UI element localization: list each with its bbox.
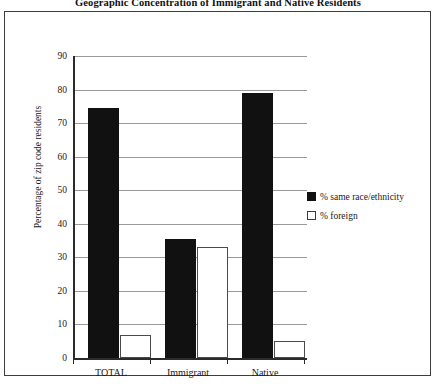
y-tick-label-40: 40	[45, 220, 67, 229]
y-axis: 90 80 70 60 50 40 30 20 10 0	[31, 56, 67, 358]
x-tick-label-native: Native	[219, 367, 311, 378]
y-tick-label-50: 50	[45, 186, 67, 195]
bar-group-immigrant	[156, 56, 233, 358]
legend-label-same-race: % same race/ethnicity	[320, 192, 404, 202]
y-tick-label-70: 70	[45, 119, 67, 128]
legend-item-foreign: % foreign	[307, 207, 433, 224]
bar-group-native	[233, 56, 310, 358]
bar-native-foreign	[274, 341, 305, 358]
y-tick-label-10: 10	[45, 320, 67, 329]
y-tick-label-80: 80	[45, 86, 67, 95]
y-tick-label-60: 60	[45, 153, 67, 162]
y-tick-label-20: 20	[45, 287, 67, 296]
x-tick-mark-3	[304, 359, 305, 364]
legend-label-foreign: % foreign	[320, 211, 358, 221]
y-tick-label-0: 0	[45, 354, 67, 363]
chart-title: Geographic Concentration of Immigrant an…	[0, 0, 436, 9]
clipped-footer-text	[14, 379, 214, 386]
y-tick-label-30: 30	[45, 253, 67, 262]
bar-immigrant-same-race	[165, 239, 196, 358]
bar-total-foreign	[120, 335, 151, 358]
x-tick-mark-1	[150, 359, 151, 364]
x-tick-mark-2	[227, 359, 228, 364]
plot-area	[73, 56, 307, 360]
legend-swatch-outlined-square-icon	[307, 211, 316, 220]
bar-group-total	[79, 56, 156, 358]
chart-legend: % same race/ethnicity % foreign	[307, 188, 433, 226]
bar-native-same-race	[242, 93, 273, 358]
bar-total-same-race	[88, 108, 119, 358]
chart-frame: Percentage of zip code residents 90 80 7…	[4, 11, 431, 376]
legend-item-same-race: % same race/ethnicity	[307, 188, 433, 205]
bar-immigrant-foreign	[197, 247, 228, 358]
legend-swatch-filled-square-icon	[307, 192, 316, 201]
y-tick-label-90: 90	[45, 52, 67, 61]
x-tick-mark-0	[73, 359, 74, 364]
